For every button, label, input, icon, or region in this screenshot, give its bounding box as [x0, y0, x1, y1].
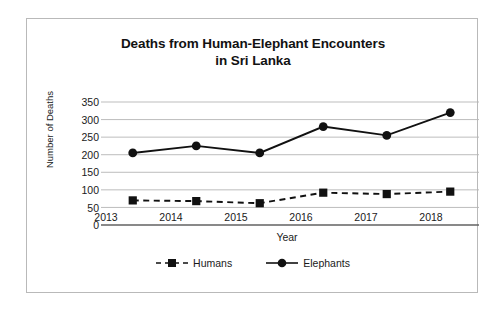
data-point: [129, 196, 137, 204]
x-tick-2013: 2013: [81, 211, 131, 223]
data-point: [383, 190, 391, 198]
x-tick-2015: 2015: [211, 211, 261, 223]
data-point: [256, 199, 264, 207]
legend-marker-square-icon: [156, 257, 188, 269]
legend-marker-circle-icon: [266, 257, 298, 269]
series-humans: [129, 188, 455, 208]
legend-item-humans: Humans: [156, 257, 232, 269]
x-tick-2017: 2017: [341, 211, 391, 223]
gridlines: [101, 102, 479, 225]
x-tick-2016: 2016: [276, 211, 326, 223]
plot-svg: [27, 19, 479, 294]
legend-label-elephants: Elephants: [303, 257, 350, 269]
plot-area: Number of Deaths 350 300 250 200 150 100…: [27, 19, 479, 294]
data-point: [192, 142, 201, 151]
chart-frame: Deaths from Human-Elephant Encounters in…: [26, 18, 478, 293]
data-point: [255, 149, 264, 158]
series-layer: [128, 108, 454, 207]
legend-label-humans: Humans: [193, 257, 232, 269]
data-point: [446, 188, 454, 196]
series-elephants: [128, 108, 454, 157]
data-point: [319, 122, 328, 131]
x-axis-label: Year: [87, 231, 487, 243]
data-point: [382, 131, 391, 140]
chart-legend: Humans Elephants: [27, 257, 479, 269]
chart-page: Deaths from Human-Elephant Encounters in…: [0, 0, 504, 310]
x-tick-2014: 2014: [146, 211, 196, 223]
data-point: [128, 149, 137, 158]
x-tick-2018: 2018: [406, 211, 456, 223]
data-point: [192, 197, 200, 205]
legend-item-elephants: Elephants: [266, 257, 350, 269]
data-point: [446, 108, 455, 117]
data-point: [319, 189, 327, 197]
